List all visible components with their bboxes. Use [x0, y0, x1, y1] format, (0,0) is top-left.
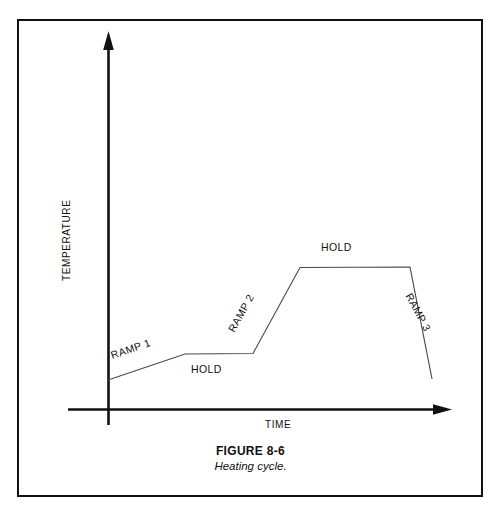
segment-label-hold-2: HOLD — [321, 241, 352, 253]
figure-caption-title: FIGURE 8-6 — [0, 444, 501, 459]
segment-label-hold-1: HOLD — [191, 363, 222, 375]
heating-cycle-curve — [108, 267, 432, 380]
arrow-right-icon — [433, 404, 452, 415]
figure-caption: FIGURE 8-6 Heating cycle. — [0, 444, 501, 474]
heating-cycle-plot — [0, 0, 501, 515]
x-axis-label: TIME — [265, 419, 291, 430]
arrow-up-icon — [103, 31, 114, 50]
figure-caption-subtitle: Heating cycle. — [0, 459, 501, 474]
figure-page: TEMPERATURE TIME RAMP 1 HOLD RAMP 2 HOLD… — [0, 0, 501, 515]
y-axis-label: TEMPERATURE — [61, 200, 72, 281]
